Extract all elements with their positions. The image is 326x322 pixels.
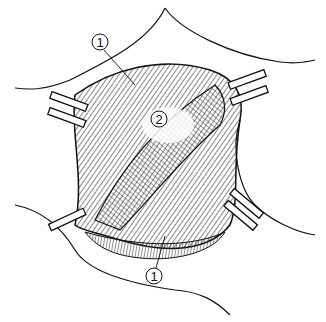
anatomical-drawing: 1 2 1 <box>0 0 326 322</box>
highlight-area <box>142 107 194 143</box>
label-1-top-text: 1 <box>96 35 103 50</box>
label-1-bottom: 1 <box>146 268 162 284</box>
label-2-center: 2 <box>151 111 167 127</box>
label-1-top: 1 <box>92 34 108 50</box>
illustration-canvas: 1 2 1 <box>0 0 326 322</box>
label-2-center-text: 2 <box>155 112 162 127</box>
label-1-bottom-text: 1 <box>150 269 157 284</box>
